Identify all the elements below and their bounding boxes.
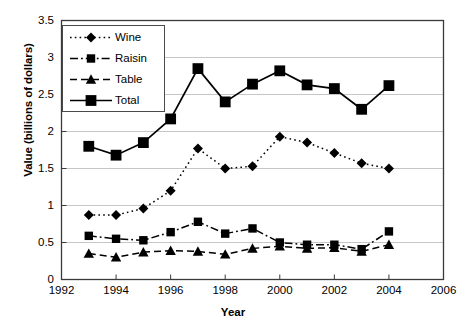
data-point-marker [112, 235, 120, 243]
series-raisin [85, 218, 394, 254]
x-tick-label: 1998 [198, 285, 252, 297]
x-tick-label: 2004 [362, 285, 416, 297]
data-point-marker [138, 137, 149, 148]
data-point-marker [86, 33, 96, 43]
legend-item-wine[interactable]: Wine [63, 27, 166, 48]
y-tick-label: 2.5 [8, 89, 54, 101]
data-point-marker [384, 240, 394, 249]
data-point-marker [166, 186, 176, 196]
legend-label: Wine [115, 30, 141, 44]
data-point-marker [385, 227, 393, 235]
data-point-marker [357, 158, 367, 168]
y-tick-label: 2 [8, 126, 54, 138]
data-point-marker [274, 65, 285, 76]
data-point-marker [111, 150, 122, 161]
legend: WineRaisinTableTotal [62, 25, 165, 112]
series-line [89, 137, 389, 215]
data-point-marker [220, 164, 230, 174]
data-point-marker [302, 79, 313, 90]
legend-item-table[interactable]: Table [63, 69, 166, 90]
data-point-marker [384, 164, 394, 174]
x-tick-label: 1996 [144, 285, 198, 297]
legend-item-total[interactable]: Total [63, 90, 166, 111]
legend-label: Table [115, 72, 143, 86]
data-point-marker [139, 236, 147, 244]
data-point-marker [329, 83, 340, 94]
data-point-marker [138, 203, 148, 213]
series-line [89, 222, 389, 249]
data-point-marker [220, 97, 231, 108]
legend-symbol-triangle [67, 69, 117, 90]
data-point-marker [248, 224, 256, 232]
legend-symbol-diamond [67, 27, 117, 48]
data-point-marker [85, 232, 93, 240]
x-tick-label: 2006 [417, 285, 466, 297]
chart-container: Value (billions of dollars) Year WineRai… [0, 0, 466, 329]
legend-symbol-square [67, 48, 117, 69]
series-wine [84, 132, 394, 220]
data-point-marker [193, 246, 203, 255]
data-point-marker [356, 104, 367, 115]
x-tick-label: 2000 [253, 285, 307, 297]
data-point-marker [84, 248, 94, 257]
data-point-marker [86, 95, 97, 106]
x-tick-label: 1992 [35, 285, 89, 297]
y-tick-label: 0 [8, 274, 54, 286]
data-point-marker [87, 54, 95, 62]
data-point-marker [275, 132, 285, 142]
y-tick-label: 0.5 [8, 237, 54, 249]
legend-label: Raisin [115, 51, 147, 65]
x-tick-label: 2002 [307, 285, 361, 297]
data-point-marker [194, 218, 202, 226]
y-tick-label: 3.5 [8, 15, 54, 27]
data-point-marker [384, 80, 395, 91]
y-tick-label: 1 [8, 200, 54, 212]
data-point-marker [84, 210, 94, 220]
data-point-marker [193, 144, 203, 154]
legend-label: Total [115, 93, 139, 107]
data-point-marker [302, 138, 312, 148]
data-point-marker [329, 148, 339, 158]
data-point-marker [193, 63, 204, 74]
y-tick-label: 1.5 [8, 163, 54, 175]
data-point-marker [166, 228, 174, 236]
data-point-marker [83, 141, 94, 152]
y-tick-label: 3 [8, 52, 54, 64]
legend-symbol-square-large [67, 90, 117, 111]
data-point-marker [221, 229, 229, 237]
data-point-marker [111, 210, 121, 220]
data-point-marker [165, 114, 176, 125]
data-point-marker [247, 79, 258, 90]
x-tick-label: 1994 [89, 285, 143, 297]
legend-item-raisin[interactable]: Raisin [63, 48, 166, 69]
data-point-marker [248, 161, 258, 171]
